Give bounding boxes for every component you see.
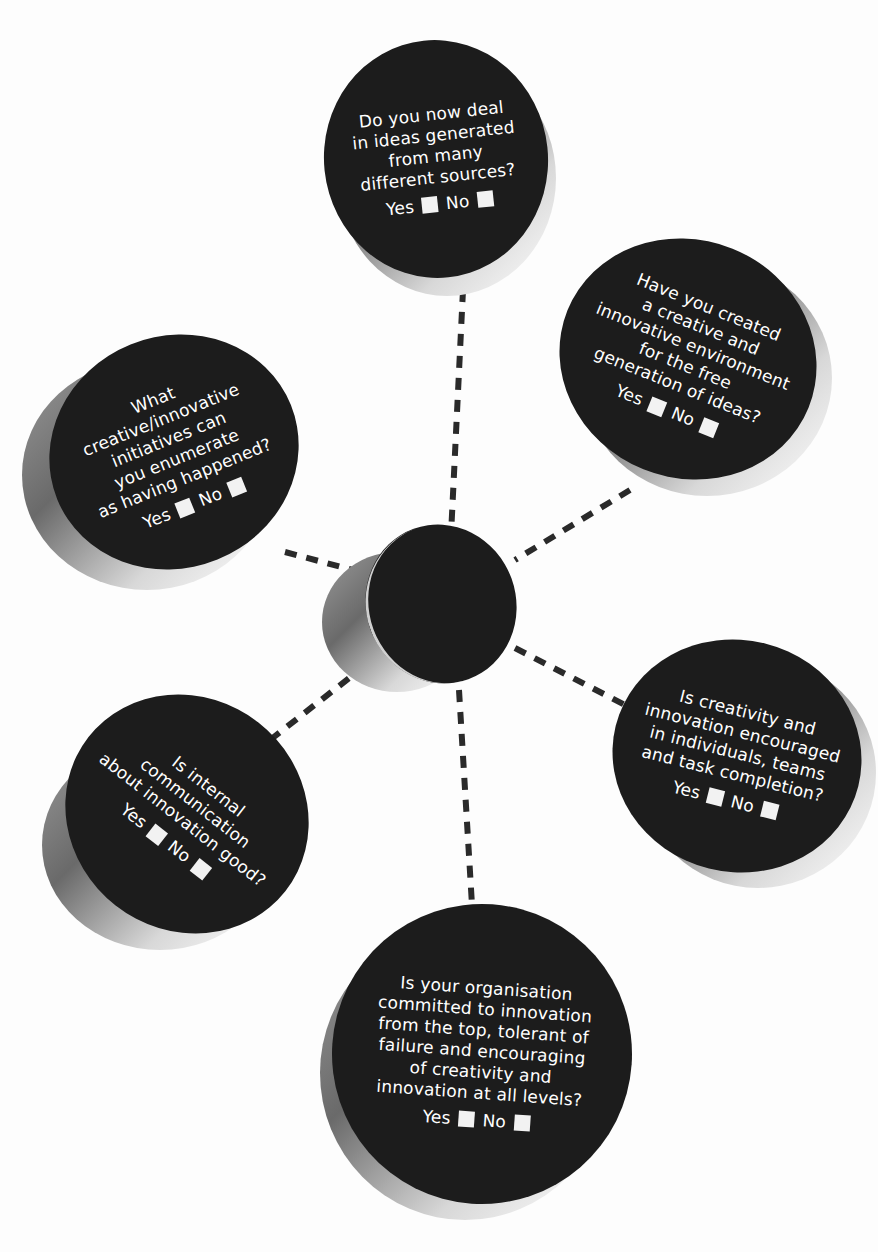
question-node-bottom: Is your organisation committed to innova… bbox=[318, 900, 638, 1224]
yes-label: Yes bbox=[422, 1106, 451, 1129]
connector-top bbox=[451, 290, 463, 535]
yes-label: Yes bbox=[670, 776, 702, 803]
connector-lower-right bbox=[515, 648, 625, 705]
yes-checkbox[interactable] bbox=[706, 787, 725, 806]
question-node-upper-left: What creative/innovative initiatives can… bbox=[18, 330, 308, 600]
question-node-top: Do you now deal in ideas generated from … bbox=[318, 38, 558, 298]
yes-no-options: Yes No bbox=[422, 1106, 533, 1135]
disc-face: What creative/innovative initiatives can… bbox=[14, 297, 335, 607]
no-checkbox[interactable] bbox=[514, 1114, 531, 1131]
disc-face: Is internal communication about innovati… bbox=[17, 646, 357, 983]
no-checkbox[interactable] bbox=[190, 858, 212, 880]
yes-checkbox[interactable] bbox=[458, 1111, 475, 1128]
question-text: Is your organisation committed to innova… bbox=[372, 970, 595, 1111]
yes-checkbox[interactable] bbox=[421, 196, 439, 214]
no-label: No bbox=[196, 483, 226, 511]
question-text: Do you now deal in ideas generated from … bbox=[349, 95, 520, 196]
question-text: What creative/innovative initiatives can… bbox=[63, 356, 275, 523]
yes-checkbox[interactable] bbox=[647, 396, 668, 417]
no-label: No bbox=[668, 403, 698, 431]
question-text: Is creativity and innovation encouraged … bbox=[633, 678, 848, 808]
no-checkbox[interactable] bbox=[698, 417, 719, 438]
no-label: No bbox=[163, 836, 194, 867]
no-checkbox[interactable] bbox=[760, 801, 779, 820]
no-checkbox[interactable] bbox=[226, 476, 247, 497]
question-node-lower-right: Is creativity and innovation encouraged … bbox=[610, 636, 878, 896]
question-text: Have you created a creative and innovati… bbox=[577, 259, 808, 434]
no-label: No bbox=[729, 791, 757, 817]
no-label: No bbox=[482, 1110, 507, 1133]
no-label: No bbox=[445, 190, 471, 213]
question-node-lower-left: Is internal communication about innovati… bbox=[40, 690, 310, 960]
yes-no-options: Yes No bbox=[385, 188, 496, 220]
hub-node bbox=[322, 522, 522, 700]
yes-label: Yes bbox=[385, 196, 415, 220]
no-checkbox[interactable] bbox=[476, 190, 494, 208]
yes-checkbox[interactable] bbox=[174, 497, 195, 518]
yes-label: Yes bbox=[140, 504, 174, 534]
yes-label: Yes bbox=[612, 380, 646, 410]
yes-label: Yes bbox=[116, 799, 151, 833]
question-node-upper-right: Have you created a creative and innovati… bbox=[552, 234, 842, 504]
disc-face: Have you created a creative and innovati… bbox=[523, 200, 853, 518]
yes-checkbox[interactable] bbox=[146, 823, 168, 845]
connector-bottom bbox=[459, 690, 472, 905]
